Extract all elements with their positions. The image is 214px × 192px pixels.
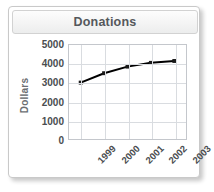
y-axis-title: Dollars (18, 62, 32, 128)
gridline-horizontal (69, 64, 186, 65)
y-axis-tick-label: 1000 (31, 115, 64, 126)
gridline-vertical (81, 45, 82, 139)
y-axis-tick-label: 0 (31, 135, 64, 146)
donations-line-series (69, 45, 186, 139)
page-title: Donations (74, 15, 137, 29)
gridline-vertical (129, 45, 130, 139)
chart-title-bar: Donations (12, 10, 198, 34)
gridline-horizontal (69, 103, 186, 104)
x-axis-tick-labels: 19992000200120022003 (68, 141, 187, 177)
chart-widget: Donations Dollars 500040003000200010000 … (8, 6, 200, 178)
gridline-vertical (152, 45, 153, 139)
gridline-horizontal (69, 122, 186, 123)
x-axis-tick-label: 2002 (166, 143, 189, 166)
y-axis-tick-label: 5000 (31, 39, 64, 50)
x-axis-tick-label: 1999 (95, 143, 118, 166)
y-axis-tick-labels: 500040003000200010000 (31, 44, 64, 140)
y-axis-tick-label: 2000 (31, 96, 64, 107)
gridline-vertical (176, 45, 177, 139)
chart-plot-region: Dollars 500040003000200010000 1999200020… (9, 36, 199, 177)
y-axis-tick-label: 4000 (31, 58, 64, 69)
plot-area (68, 44, 187, 140)
y-axis-tick-label: 3000 (31, 77, 64, 88)
y-axis-title-label: Dollars (20, 77, 31, 112)
x-axis-tick-label: 2001 (143, 143, 166, 166)
x-axis-tick-label: 2003 (190, 143, 213, 166)
x-axis-tick-label: 2000 (119, 143, 142, 166)
gridline-vertical (105, 45, 106, 139)
gridline-horizontal (69, 83, 186, 84)
